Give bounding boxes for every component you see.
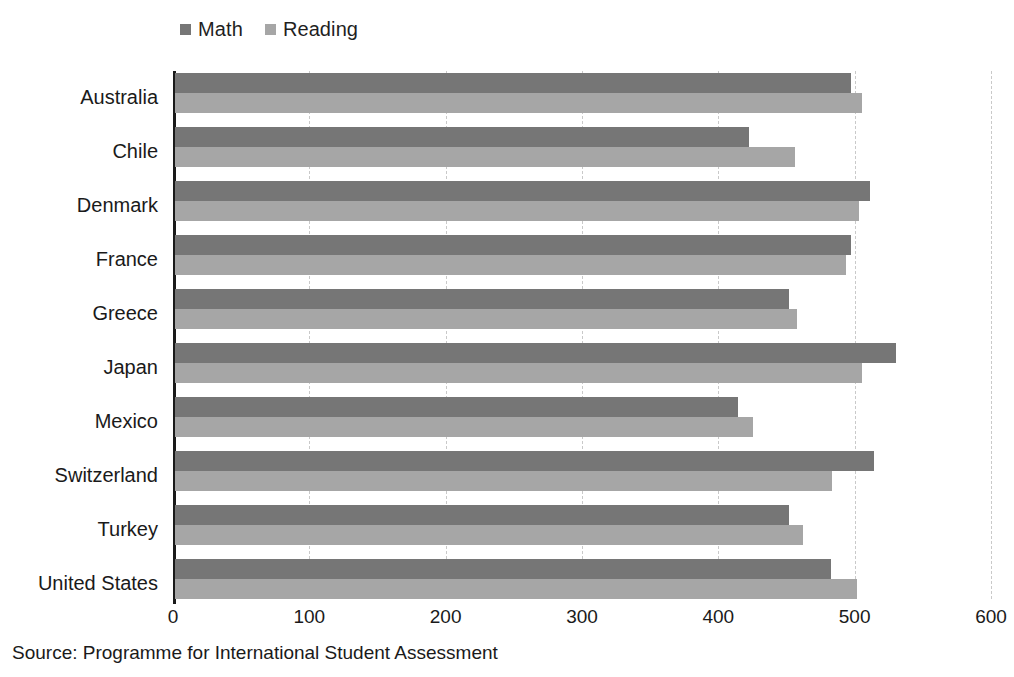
category-label: France <box>0 242 158 276</box>
bar-math-japan <box>175 343 896 363</box>
bar-math-switzerland <box>175 451 874 471</box>
x-tick-label-400: 400 <box>702 604 734 630</box>
category-label: Chile <box>0 134 158 168</box>
category-label: Switzerland <box>0 458 158 492</box>
x-tick-label-300: 300 <box>566 604 598 630</box>
bar-reading-turkey <box>175 525 803 545</box>
chart-row: Switzerland <box>0 448 1014 502</box>
category-label: United States <box>0 566 158 600</box>
category-label: Denmark <box>0 188 158 222</box>
legend-label: Math <box>198 19 243 39</box>
bar-reading-united-states <box>175 579 857 599</box>
bar-reading-japan <box>175 363 862 383</box>
x-tick-label-0: 0 <box>168 604 179 630</box>
bar-reading-chile <box>175 147 795 167</box>
category-label: Mexico <box>0 404 158 438</box>
bar-series-layer: AustraliaChileDenmarkFranceGreeceJapanMe… <box>0 66 1014 606</box>
chart-plot-area: AustraliaChileDenmarkFranceGreeceJapanMe… <box>0 66 1014 606</box>
x-tick-label-200: 200 <box>430 604 462 630</box>
bar-reading-france <box>175 255 846 275</box>
chart-row: Australia <box>0 70 1014 124</box>
chart-row: Greece <box>0 286 1014 340</box>
chart-row: Mexico <box>0 394 1014 448</box>
chart-row: Japan <box>0 340 1014 394</box>
legend-item-math[interactable]: Math <box>180 19 243 39</box>
category-label: Japan <box>0 350 158 384</box>
bar-math-chile <box>175 127 749 147</box>
category-label: Australia <box>0 80 158 114</box>
legend-label: Reading <box>283 19 358 39</box>
legend-item-reading[interactable]: Reading <box>265 19 358 39</box>
bar-math-france <box>175 235 851 255</box>
bar-math-mexico <box>175 397 738 417</box>
bar-math-turkey <box>175 505 789 525</box>
category-label: Turkey <box>0 512 158 546</box>
chart-row: United States <box>0 556 1014 610</box>
chart-row: Denmark <box>0 178 1014 232</box>
bar-reading-australia <box>175 93 862 113</box>
chart-legend: MathReading <box>180 16 358 42</box>
chart-row: Chile <box>0 124 1014 178</box>
x-axis-tick-labels: 0100200300400500600 <box>0 604 1014 634</box>
x-tick-label-600: 600 <box>975 604 1007 630</box>
bar-math-united-states <box>175 559 831 579</box>
bar-math-denmark <box>175 181 870 201</box>
chart-row: France <box>0 232 1014 286</box>
category-label: Greece <box>0 296 158 330</box>
bar-reading-switzerland <box>175 471 832 491</box>
legend-swatch-icon <box>265 24 276 35</box>
legend-swatch-icon <box>180 24 191 35</box>
bar-reading-denmark <box>175 201 859 221</box>
bar-reading-greece <box>175 309 797 329</box>
x-tick-label-500: 500 <box>839 604 871 630</box>
source-note: Source: Programme for International Stud… <box>12 640 498 666</box>
x-tick-label-100: 100 <box>293 604 325 630</box>
bar-math-greece <box>175 289 789 309</box>
bar-math-australia <box>175 73 851 93</box>
chart-row: Turkey <box>0 502 1014 556</box>
bar-reading-mexico <box>175 417 753 437</box>
